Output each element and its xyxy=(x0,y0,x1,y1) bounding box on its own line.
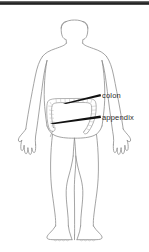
body-outline xyxy=(18,20,130,240)
anatomy-diagram-page: colon appendix xyxy=(0,0,149,252)
body-figure-illustration xyxy=(0,0,149,252)
label-appendix: appendix xyxy=(102,113,134,122)
label-colon: colon xyxy=(102,91,121,100)
